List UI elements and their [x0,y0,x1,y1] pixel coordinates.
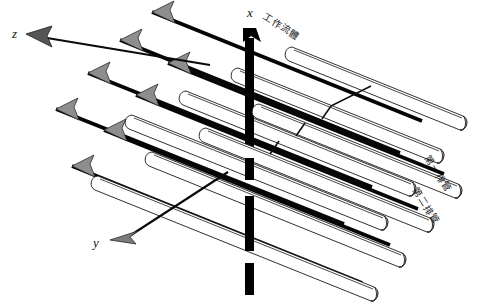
flow-arrowhead-row1-3 [104,119,127,141]
flow-arrowhead-row1-2 [136,84,159,106]
flow-arrowhead-row2-2 [120,29,143,51]
y-axis-label: y [91,235,99,250]
flow-arrowhead-row2-4 [56,98,79,120]
x-axis-label: x [246,5,253,20]
flow-arrowhead-row1-4 [72,155,95,177]
figure-root: x y z 工作流體 第一排管 第二排管 [0,0,477,302]
y-axis-arrowhead [110,231,138,244]
leader-line-top [331,86,371,106]
flow-arrowhead-row1-1 [168,52,191,74]
tube-bank-diagram: x y z 工作流體 第一排管 第二排管 [0,0,477,302]
z-axis-label: z [11,26,17,41]
working-fluid-label: 工作流體 [261,10,302,41]
flow-arrowhead-row2-1 [152,1,175,23]
flow-arrowhead-row2-3 [88,62,111,84]
z-axis-arrowhead [26,26,52,47]
x-axis-lower [245,158,254,295]
x-axis-shaft-seg4 [245,263,254,295]
x-axis-shaft-seg2 [245,158,254,180]
x-axis-shaft-seg3 [245,196,254,251]
